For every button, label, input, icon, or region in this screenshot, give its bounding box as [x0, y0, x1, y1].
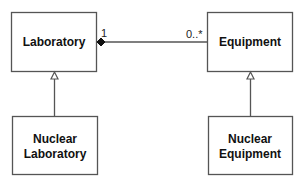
multiplicity-laboratory: 1 — [101, 27, 107, 39]
class-nuclear-equipment-label-line2: Equipment — [219, 147, 281, 161]
class-equipment: Equipment — [208, 13, 293, 72]
class-nuclear-laboratory-label-line2: Laboratory — [24, 147, 87, 161]
class-nuclear-equipment-label-line1: Nuclear — [228, 132, 272, 146]
class-nuclear-laboratory: Nuclear Laboratory — [13, 117, 98, 175]
generalization-equipment — [247, 72, 254, 116]
inheritance-arrow-icon — [51, 72, 58, 79]
uml-diagram: Laboratory Equipment Nuclear Laboratory … — [0, 0, 303, 182]
generalization-laboratory — [51, 72, 58, 116]
class-equipment-label: Equipment — [219, 35, 281, 49]
composition-diamond-icon — [97, 38, 105, 46]
class-nuclear-laboratory-label-line1: Nuclear — [33, 132, 77, 146]
class-nuclear-equipment: Nuclear Equipment — [209, 117, 293, 175]
class-laboratory: Laboratory — [12, 13, 97, 72]
inheritance-arrow-icon — [247, 72, 254, 79]
multiplicity-equipment: 0..* — [186, 28, 203, 40]
class-laboratory-label: Laboratory — [23, 35, 86, 49]
composition-association: 1 0..* — [97, 27, 207, 46]
